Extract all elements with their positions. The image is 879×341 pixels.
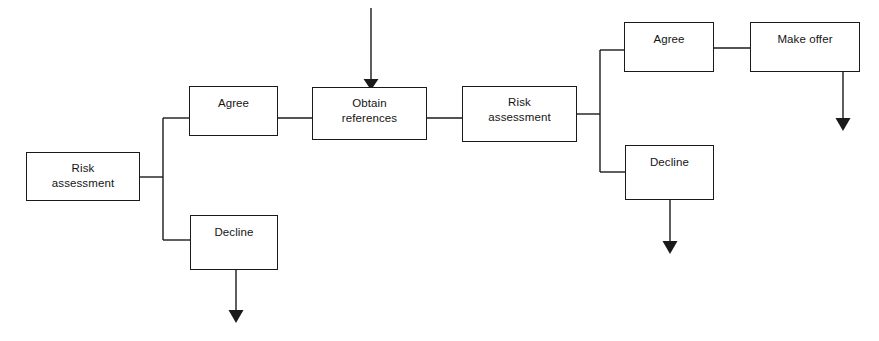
node-risk-assessment-2[interactable]: Risk assessment xyxy=(462,86,577,142)
node-label: Agree xyxy=(653,32,684,47)
node-label: Decline xyxy=(214,225,253,240)
arrow-out-make-offer-head xyxy=(836,118,851,131)
arrow-out-decline-1-head xyxy=(229,310,244,323)
node-agree-2[interactable]: Agree xyxy=(624,22,714,72)
node-label: Obtain references xyxy=(342,96,397,125)
arrow-out-decline-2-head xyxy=(663,241,678,254)
node-make-offer[interactable]: Make offer xyxy=(750,22,860,72)
flowchart-canvas: Risk assessment Agree Decline Obtain ref… xyxy=(0,0,879,341)
node-obtain-references[interactable]: Obtain references xyxy=(312,87,427,140)
node-label: Risk assessment xyxy=(52,161,114,190)
node-label: Risk assessment xyxy=(488,95,550,124)
node-label: Decline xyxy=(650,155,689,170)
node-label: Agree xyxy=(218,96,249,111)
node-label: Make offer xyxy=(777,32,832,47)
node-decline-1[interactable]: Decline xyxy=(190,215,278,270)
node-agree-1[interactable]: Agree xyxy=(189,86,278,136)
node-risk-assessment-1[interactable]: Risk assessment xyxy=(26,152,140,201)
node-decline-2[interactable]: Decline xyxy=(625,145,714,200)
